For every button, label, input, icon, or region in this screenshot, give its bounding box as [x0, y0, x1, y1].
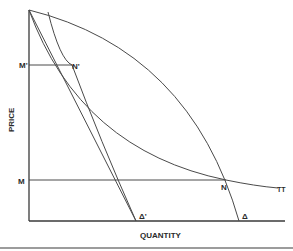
label-n-prime: N'	[72, 62, 80, 71]
price-quantity-diagram: M' N' M N TT Δ' Δ QUANTITY PRICE	[0, 0, 293, 251]
steep-curve	[48, 12, 136, 221]
label-tt: TT	[277, 186, 286, 193]
label-m-prime: M'	[19, 61, 28, 70]
label-m: M	[18, 177, 25, 186]
label-n: N	[221, 183, 227, 192]
tt-curve	[29, 10, 278, 188]
straight-line-to-delta-prime	[29, 10, 136, 221]
outer-curve	[29, 10, 239, 221]
y-axis-label: PRICE	[7, 107, 16, 132]
label-delta: Δ	[242, 212, 248, 221]
x-axis-label: QUANTITY	[140, 231, 182, 240]
label-delta-prime: Δ'	[139, 212, 147, 221]
